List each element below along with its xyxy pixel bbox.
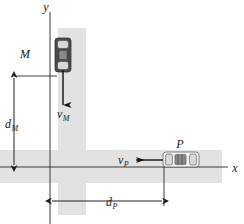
- car-p-group: P: [163, 137, 199, 167]
- velocity-p-subscript: P: [123, 160, 129, 169]
- car-m-front-window: [58, 41, 69, 49]
- car-p-roof: [175, 155, 186, 165]
- axes-group: y x: [0, 0, 238, 224]
- y-axis-label: y: [42, 0, 49, 14]
- kinematics-figure: y x M P vM vP: [0, 0, 244, 224]
- car-p-front-window: [166, 154, 173, 165]
- car-p-label: P: [175, 137, 184, 151]
- roads-group: [0, 28, 222, 215]
- car-p-rear-window: [190, 154, 197, 165]
- dimension-dm-subscript: M: [11, 124, 20, 133]
- x-axis-label: x: [231, 161, 238, 175]
- diagram-canvas: y x M P vM vP: [0, 0, 244, 224]
- dimension-dp-subscript: P: [112, 202, 118, 211]
- car-m-roof: [59, 51, 67, 60]
- car-m-rear-window: [58, 62, 69, 70]
- car-m-label: M: [19, 47, 31, 61]
- car-m-group: M: [19, 38, 71, 72]
- velocity-m-subscript: M: [62, 114, 71, 123]
- dimension-dp-label: dP: [106, 195, 118, 211]
- dimension-dm-label: dM: [5, 117, 20, 133]
